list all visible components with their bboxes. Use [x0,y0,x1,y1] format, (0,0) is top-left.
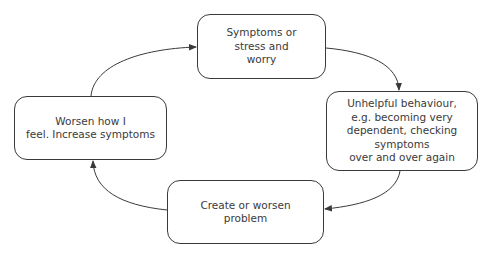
arrow-right-to-bottom [325,171,400,209]
node-label: Symptoms or stress and worry [226,26,296,67]
cycle-diagram: Symptoms or stress and worry Unhelpful b… [0,0,491,253]
node-worsen-feel: Worsen how I feel. Increase symptoms [14,96,167,160]
arrow-top-to-right [326,48,399,90]
node-label: Create or worsen problem [200,199,290,226]
node-label: Unhelpful behaviour, e.g. becoming very … [333,97,471,165]
arrow-bottom-to-left [93,161,167,210]
node-label: Worsen how I feel. Increase symptoms [26,115,155,142]
node-unhelpful-behaviour: Unhelpful behaviour, e.g. becoming very … [326,91,478,171]
node-symptoms-stress-worry: Symptoms or stress and worry [197,14,326,79]
node-create-worsen-problem: Create or worsen problem [167,180,324,244]
arrow-left-to-top [91,47,196,96]
